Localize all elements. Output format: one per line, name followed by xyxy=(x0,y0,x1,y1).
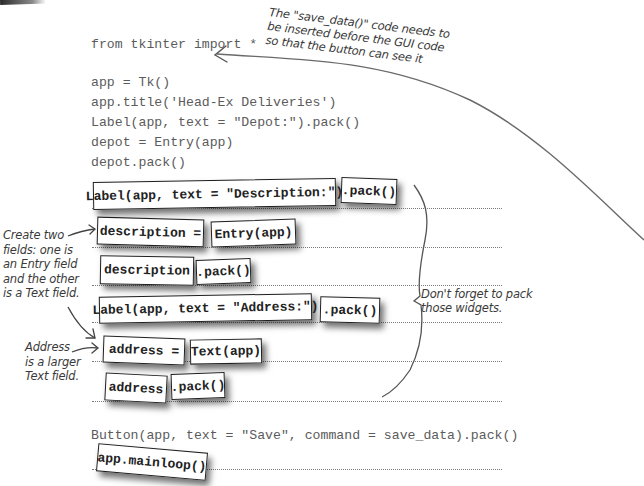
magnet-label-description[interactable]: Label(app, text = "Description:") xyxy=(93,178,336,210)
blank-line-3 xyxy=(92,285,502,286)
annotation-pack-widgets: Don't forget to pack those widgets. xyxy=(421,287,532,315)
code-line-import: from tkinter import * xyxy=(91,37,257,53)
magnet-label-address[interactable]: Label(app, text = "Address:") xyxy=(99,293,312,324)
code-line-depot-pack: depot.pack() xyxy=(91,155,186,171)
magnet-label-address-pack[interactable]: .pack() xyxy=(320,296,381,324)
code-line-save-button: Button(app, text = "Save", command = sav… xyxy=(91,428,518,444)
magnet-description-assign[interactable]: description = xyxy=(97,217,205,248)
annotation-address-larger: Address is a larger Text field. xyxy=(25,340,80,384)
magnet-description-var[interactable]: description xyxy=(100,255,194,286)
code-line-app-title: app.title('Head-Ex Deliveries') xyxy=(91,95,336,111)
magnet-description-pack[interactable]: .pack() xyxy=(196,258,252,285)
magnet-text-app[interactable]: Text(app) xyxy=(190,338,262,364)
magnet-address-var[interactable]: address xyxy=(104,372,167,403)
corner-smudge xyxy=(0,0,46,5)
save-note-curve xyxy=(217,54,644,240)
magnet-label-description-pack[interactable]: .pack() xyxy=(341,177,398,205)
annotation-create-two-fields: Create two fields: one is an Entry field… xyxy=(3,228,79,301)
magnet-address-assign[interactable]: address = xyxy=(103,336,186,366)
annotation-save-data-note: The "save_data()" code needs to be inser… xyxy=(265,5,451,69)
blank-line-2 xyxy=(92,247,502,248)
magnet-mainloop[interactable]: app.mainloop() xyxy=(96,443,208,480)
arrow-text-field-icon xyxy=(68,307,95,338)
code-line-depot-label: Label(app, text = "Depot:").pack() xyxy=(91,115,360,131)
code-line-depot-entry: depot = Entry(app) xyxy=(91,135,233,151)
code-line-app-tk: app = Tk() xyxy=(91,75,170,91)
magnet-entry-app[interactable]: Entry(app) xyxy=(211,219,297,248)
magnet-address-pack[interactable]: .pack() xyxy=(171,372,226,400)
